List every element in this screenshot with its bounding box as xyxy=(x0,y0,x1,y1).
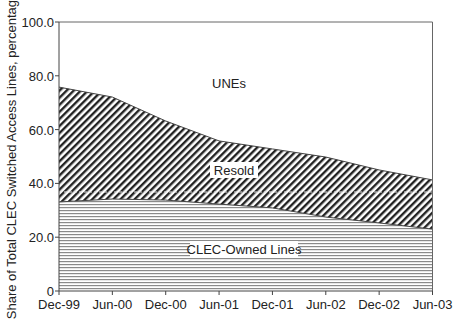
x-tick-label: Jun-01 xyxy=(199,297,239,312)
y-tick-label: 80.0 xyxy=(29,69,54,84)
label-resold: Resold xyxy=(214,163,254,178)
y-axis-title: Share of Total CLEC Switched Access Line… xyxy=(4,0,19,319)
label-unes: UNEs xyxy=(212,76,246,91)
y-tick-label: 100.0 xyxy=(21,15,54,30)
y-tick-label: 40.0 xyxy=(29,176,54,191)
x-tick-label: Jun-02 xyxy=(306,297,346,312)
y-tick-label: 20.0 xyxy=(29,230,54,245)
label-clec-owned-lines: CLEC-Owned Lines xyxy=(187,242,302,257)
x-tick-label: Jun-03 xyxy=(413,297,453,312)
x-tick-label: Dec-99 xyxy=(38,297,80,312)
plot-areas xyxy=(59,87,433,291)
x-tick-label: Dec-02 xyxy=(358,297,400,312)
x-tick-label: Dec-00 xyxy=(145,297,187,312)
x-tick-label: Jun-00 xyxy=(92,297,132,312)
stacked-area-chart: 020.040.060.080.0100.0Dec-99Jun-00Dec-00… xyxy=(0,0,470,332)
y-tick-label: 60.0 xyxy=(29,123,54,138)
x-tick-label: Dec-01 xyxy=(251,297,293,312)
